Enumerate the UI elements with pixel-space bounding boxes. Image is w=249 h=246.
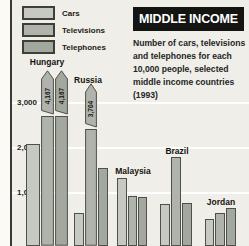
bar-malaysia-televisions: [128, 196, 137, 246]
bar-hungary-cars: [26, 144, 40, 246]
bar-hungary-telephones-broken: 4,167: [55, 70, 68, 246]
left-axis-line: [10, 0, 12, 246]
subtitle-line: 10,000 people, selected: [133, 63, 249, 76]
country-label-jordan: Jordan: [207, 197, 235, 207]
country-label-hungary: Hungary: [30, 57, 64, 67]
bar-hungary-televisions-broken: 4,167: [41, 70, 54, 246]
country-label-russia: Russia: [74, 75, 102, 85]
bar-malaysia-telephones: [138, 197, 147, 246]
bar-jordan-cars: [205, 219, 214, 246]
legend-swatch-telephones: [22, 40, 55, 54]
chart-title: MIDDLE INCOME: [133, 7, 244, 31]
page-margin: [0, 0, 10, 246]
country-label-malaysia: Malaysia: [115, 166, 150, 176]
y-tick-label: 3,000: [10, 98, 37, 107]
legend-swatch-cars: [22, 6, 55, 20]
bar-jordan-televisions: [215, 213, 225, 246]
legend-label-telephones: Telephones: [62, 43, 106, 52]
bar-brazil-telephones: [182, 203, 192, 246]
bar-russia-televisions-value-label: 3,704: [87, 101, 95, 118]
bar-russia-telephones: [98, 168, 108, 246]
subtitle-line: (1993): [133, 89, 249, 102]
chart-subtitle: Number of cars, televisions and telephon…: [133, 37, 249, 102]
chart-panel: 3,0002,0001,0004,1674,167Hungary3,704Rus…: [0, 0, 249, 246]
legend-label-televisions: Televisions: [62, 26, 105, 35]
subtitle-line: middle income countries: [133, 76, 249, 89]
bar-jordan-telephones: [226, 208, 236, 246]
legend-label-cars: Cars: [62, 9, 80, 18]
bar-russia-cars: [74, 213, 84, 246]
bar-hungary-televisions-value-label: 4,167: [44, 88, 52, 105]
subtitle-line: Number of cars, televisions: [133, 37, 249, 50]
legend-swatch-televisions: [22, 23, 55, 37]
bar-brazil-televisions: [171, 157, 181, 246]
bar-hungary-telephones-value-label: 4,167: [58, 88, 66, 105]
subtitle-line: and telephones for each: [133, 50, 249, 63]
bar-brazil-cars: [160, 204, 170, 246]
bar-russia-televisions-broken: 3,704: [85, 83, 97, 246]
bar-malaysia-cars: [117, 178, 127, 246]
chart-title-text: MIDDLE INCOME: [139, 12, 238, 26]
country-label-brazil: Brazil: [165, 146, 188, 156]
